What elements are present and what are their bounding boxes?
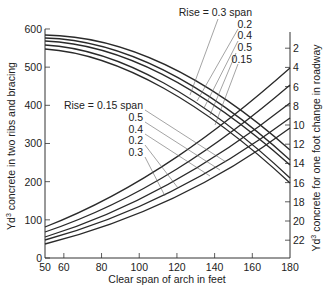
left-tick-label: 400 xyxy=(24,99,42,111)
right-tick-label: 12 xyxy=(293,138,305,150)
x-tick-label: 140 xyxy=(206,261,224,273)
x-tick-label: 120 xyxy=(168,261,186,273)
lower-annotation: 0.3 xyxy=(128,146,143,158)
arch-concrete-chart: 0100200300400500600506080100120140160180… xyxy=(0,0,329,296)
left-tick-label: 300 xyxy=(24,137,42,149)
rising-curve-1 xyxy=(45,68,290,227)
right-tick-label: 22 xyxy=(293,234,305,246)
right-tick-label: 16 xyxy=(293,177,305,189)
leader-line xyxy=(145,122,220,170)
left-tick-label: 100 xyxy=(24,214,42,226)
leader-line xyxy=(145,110,226,162)
x-tick-label: 180 xyxy=(281,261,299,273)
x-axis-title: Clear span of arch in feet xyxy=(108,273,225,285)
left-tick-label: 200 xyxy=(24,176,42,188)
descending-curve-1 xyxy=(45,35,290,150)
leader-line xyxy=(197,29,238,101)
leader-line xyxy=(145,157,165,196)
lower-annotation: Rise = 0.15 span xyxy=(64,99,143,111)
right-tick-label: 4 xyxy=(293,61,299,73)
right-tick-label: 14 xyxy=(293,157,305,169)
lower-annotation: 0.2 xyxy=(128,134,143,146)
upper-annotation: Rise = 0.3 span xyxy=(179,6,252,18)
upper-annotation: 0.4 xyxy=(237,29,252,41)
x-tick-label: 50 xyxy=(39,261,51,273)
left-tick-label: 500 xyxy=(24,61,42,73)
x-tick-label: 80 xyxy=(96,261,108,273)
upper-annotation: 0.5 xyxy=(237,41,252,53)
annotation-leaders xyxy=(145,19,238,196)
rising-curve-3 xyxy=(45,103,290,237)
leader-line xyxy=(190,19,218,95)
x-tick-label: 60 xyxy=(58,261,70,273)
x-tick-label: 160 xyxy=(244,261,262,273)
upper-annotation: 0.15 xyxy=(232,53,253,65)
right-tick-label: 18 xyxy=(293,196,305,208)
right-axis-title: Yd3 concrete for one foot change in road… xyxy=(310,44,322,252)
right-tick-label: 10 xyxy=(293,119,305,131)
left-axis-title: Yd3 concrete in two ribs and bracing xyxy=(5,62,17,230)
leader-line xyxy=(204,41,238,108)
left-tick-label: 600 xyxy=(24,23,42,35)
lower-annotation: 0.5 xyxy=(128,111,143,123)
right-tick-label: 6 xyxy=(293,81,299,93)
x-tick-label: 100 xyxy=(130,261,148,273)
right-tick-label: 8 xyxy=(293,100,299,112)
right-tick-label: 20 xyxy=(293,215,305,227)
right-tick-label: 2 xyxy=(293,42,299,54)
rising-curves xyxy=(45,68,290,244)
descending-curve-4 xyxy=(45,45,290,178)
